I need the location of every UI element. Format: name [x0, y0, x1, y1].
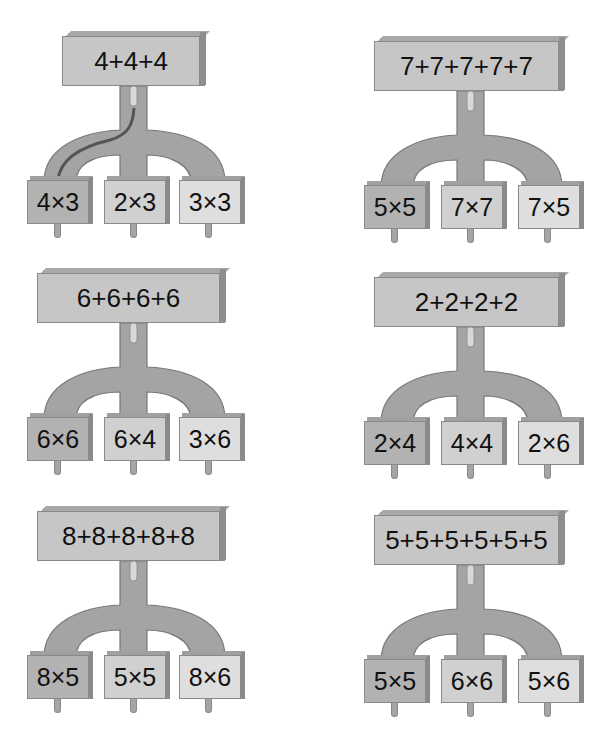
option-label: 5×6	[528, 667, 570, 696]
option-box-1[interactable]: 2×4	[364, 421, 426, 465]
option-label: 5×5	[374, 667, 416, 696]
option-box-2[interactable]: 5×5	[104, 655, 166, 699]
option-label: 5×5	[114, 663, 156, 692]
peg-icon	[130, 461, 137, 475]
option-label: 7×5	[528, 193, 570, 222]
peg-icon	[54, 699, 61, 713]
peg-icon	[54, 224, 61, 238]
option-label: 2×4	[374, 429, 416, 458]
option-label: 8×6	[189, 663, 231, 692]
sum-label: 7+7+7+7+7	[400, 51, 533, 82]
puzzle-panel-6: 5+5+5+5+5+5 5×5 6×6 5×6	[337, 479, 601, 719]
option-box-1[interactable]: 4×3	[27, 180, 89, 224]
option-label: 4×4	[451, 429, 493, 458]
peg-icon	[544, 703, 551, 717]
sum-label: 4+4+4	[94, 46, 168, 77]
option-label: 2×3	[114, 188, 156, 217]
peg-icon	[205, 461, 212, 475]
option-label: 2×6	[528, 429, 570, 458]
option-box-3[interactable]: 2×6	[518, 421, 580, 465]
option-label: 6×6	[37, 425, 79, 454]
option-label: 6×6	[451, 667, 493, 696]
option-box-1[interactable]: 6×6	[27, 417, 89, 461]
peg-icon	[205, 224, 212, 238]
option-box-1[interactable]: 5×5	[364, 659, 426, 703]
puzzle-panel-1: 4+4+4 4×3 2×3 3×3	[0, 0, 300, 240]
option-box-1[interactable]: 5×5	[364, 185, 426, 229]
option-box-3[interactable]: 3×6	[179, 417, 241, 461]
option-label: 5×5	[374, 193, 416, 222]
sum-box: 2+2+2+2	[374, 277, 559, 327]
option-label: 8×5	[37, 663, 79, 692]
sum-label: 8+8+8+8+8	[62, 521, 195, 552]
option-box-3[interactable]: 8×6	[179, 655, 241, 699]
sum-label: 2+2+2+2	[415, 287, 518, 318]
sum-box: 4+4+4	[62, 36, 200, 86]
peg-icon	[544, 465, 551, 479]
option-box-3[interactable]: 7×5	[518, 185, 580, 229]
sum-box: 5+5+5+5+5+5	[374, 515, 559, 565]
option-label: 6×4	[114, 425, 156, 454]
option-box-2[interactable]: 7×7	[441, 185, 503, 229]
puzzle-panel-2: 7+7+7+7+7 5×5 7×7 7×5	[337, 5, 601, 245]
option-label: 3×3	[189, 188, 231, 217]
option-box-3[interactable]: 5×6	[518, 659, 580, 703]
option-box-2[interactable]: 4×4	[441, 421, 503, 465]
peg-icon	[391, 703, 398, 717]
option-box-2[interactable]: 6×6	[441, 659, 503, 703]
puzzle-panel-5: 8+8+8+8+8 8×5 5×5 8×6	[0, 475, 300, 715]
sum-box: 6+6+6+6	[37, 273, 220, 323]
option-label: 4×3	[37, 188, 79, 217]
peg-icon	[391, 465, 398, 479]
peg-icon	[130, 699, 137, 713]
option-label: 7×7	[451, 193, 493, 222]
option-box-2[interactable]: 6×4	[104, 417, 166, 461]
option-box-2[interactable]: 2×3	[104, 180, 166, 224]
sum-label: 6+6+6+6	[77, 283, 180, 314]
peg-icon	[54, 461, 61, 475]
peg-icon	[130, 224, 137, 238]
option-label: 3×6	[189, 425, 231, 454]
option-box-1[interactable]: 8×5	[27, 655, 89, 699]
sum-label: 5+5+5+5+5+5	[385, 525, 548, 556]
sum-box: 7+7+7+7+7	[374, 41, 559, 91]
puzzle-panel-3: 6+6+6+6 6×6 6×4 3×6	[0, 237, 300, 477]
peg-icon	[205, 699, 212, 713]
option-box-3[interactable]: 3×3	[179, 180, 241, 224]
peg-icon	[467, 703, 474, 717]
peg-icon	[467, 465, 474, 479]
sum-box: 8+8+8+8+8	[37, 511, 220, 561]
puzzle-panel-4: 2+2+2+2 2×4 4×4 2×6	[337, 241, 601, 481]
